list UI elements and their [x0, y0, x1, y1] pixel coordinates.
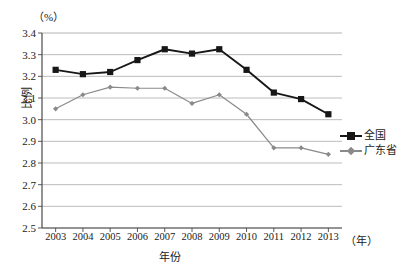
legend-label-guangdong: 广东省 — [364, 143, 397, 158]
x-axis-tick: 2003 — [45, 231, 66, 242]
chart-legend: 全国 广东省 — [340, 128, 397, 158]
legend-swatch-diamond-icon — [340, 145, 362, 157]
legend-item-national: 全国 — [340, 128, 397, 143]
x-axis-tick: 2006 — [127, 231, 148, 242]
line-chart: （%） 比例 年份 （年） 3.43.33.23.13.02.92.82.72.… — [0, 0, 406, 278]
x-axis-tick: 2005 — [100, 231, 121, 242]
x-axis-tick: 2010 — [236, 231, 257, 242]
legend-swatch-square-icon — [340, 130, 362, 142]
x-axis-tick: 2009 — [209, 231, 230, 242]
x-axis-tick: 2008 — [182, 231, 203, 242]
legend-label-national: 全国 — [364, 128, 386, 143]
x-axis-tick: 2004 — [72, 231, 93, 242]
x-axis-tick: 2007 — [154, 231, 175, 242]
x-axis-tick: 2012 — [291, 231, 312, 242]
x-axis-tick: 2013 — [318, 231, 339, 242]
legend-item-guangdong: 广东省 — [340, 143, 397, 158]
x-axis-tick: 2011 — [264, 231, 285, 242]
